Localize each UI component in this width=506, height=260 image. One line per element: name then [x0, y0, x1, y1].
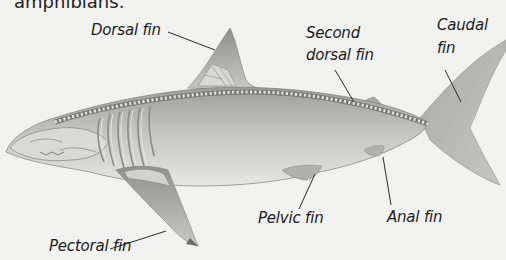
- label-second-dorsal-fin-line1: Second: [306, 25, 360, 42]
- label-anal-fin: Anal fin: [387, 209, 442, 226]
- label-caudal-fin-line2: fin: [437, 40, 455, 57]
- caudal-fin: [420, 40, 506, 185]
- label-dorsal-fin: Dorsal fin: [91, 22, 161, 39]
- label-pectoral-fin: Pectoral fin: [49, 238, 131, 255]
- label-second-dorsal-fin-line2: dorsal fin: [306, 47, 374, 64]
- label-pelvic-fin: Pelvic fin: [258, 210, 323, 227]
- label-caudal-fin-line1: Caudal: [437, 17, 488, 34]
- shark-anatomy-diagram: amphibians.: [0, 0, 506, 260]
